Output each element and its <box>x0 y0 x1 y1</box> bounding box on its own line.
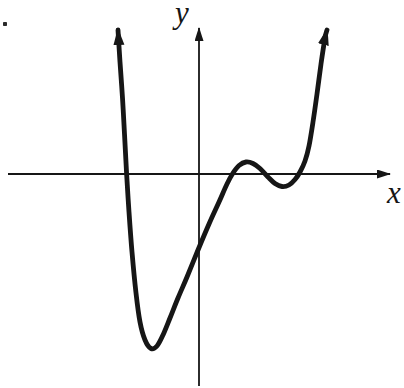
y-axis-label: y <box>172 0 189 30</box>
function-curve <box>118 30 327 349</box>
stray-period-dot <box>3 22 7 26</box>
function-plot: y x <box>0 0 404 388</box>
x-axis-label: x <box>386 175 401 210</box>
graph-page: y x <box>0 0 404 388</box>
